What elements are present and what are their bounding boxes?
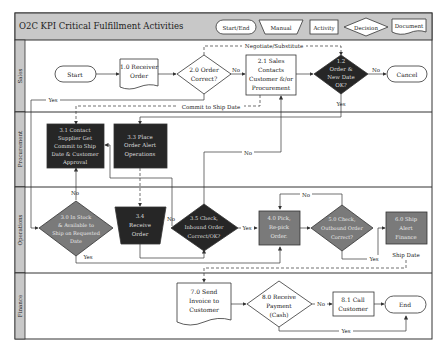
node-8-1-call-customer[interactable]: 8.1 Call Customer <box>333 292 374 316</box>
edge-label-no-2-0: No <box>232 67 241 73</box>
edge-label-no-1-2: No <box>372 67 381 73</box>
edge-label-yes-8-0: Yes <box>340 328 350 334</box>
lane-label-sales: Sales <box>17 68 23 83</box>
edge-label-no-3-0: No <box>71 190 80 196</box>
svg-text:Correct?: Correct? <box>331 234 353 240</box>
node-1-0-receive-order[interactable]: 1.0 Receiver Order <box>120 59 158 89</box>
svg-text:Receive: Receive <box>129 222 151 228</box>
edge-label-yes-3-5: Yes <box>241 225 251 231</box>
legend-activity-label: Activity <box>312 25 335 32</box>
svg-text:New Date: New Date <box>327 74 355 80</box>
svg-text:Order.: Order. <box>270 233 287 239</box>
svg-text:& Available to: & Available to <box>58 222 94 228</box>
svg-text:Correct?: Correct? <box>191 75 217 82</box>
svg-text:1.0 Receiver: 1.0 Receiver <box>120 63 158 70</box>
svg-text:3.1 Contact: 3.1 Contact <box>59 127 91 133</box>
node-start[interactable]: Start <box>55 66 96 82</box>
legend: Start/End Manual Activity Decision Docum… <box>216 18 426 36</box>
svg-text:3.4: 3.4 <box>136 213 145 219</box>
svg-text:6.0 Ship: 6.0 Ship <box>395 216 418 223</box>
svg-text:3.3 Place: 3.3 Place <box>127 134 153 140</box>
diagram-header: O2C KPI Critical Fulfillment Activities … <box>15 13 432 40</box>
svg-text:1.2: 1.2 <box>337 58 346 64</box>
svg-text:Order: Order <box>130 72 148 79</box>
svg-text:Customer: Customer <box>189 306 219 313</box>
svg-text:Customer: Customer <box>338 305 368 312</box>
svg-text:Supplier Get: Supplier Get <box>58 135 93 142</box>
svg-text:End: End <box>399 301 411 308</box>
node-2-1-sales-contacts[interactable]: 2.1 Sales Contacts Customer &/or Procure… <box>246 55 296 95</box>
svg-text:Commit to Ship: Commit to Ship <box>54 143 97 150</box>
lane-label-procurement: Procurement <box>17 130 23 167</box>
svg-text:5.0 Check,: 5.0 Check, <box>329 216 356 222</box>
edge-label-no-3-5: No <box>244 150 253 156</box>
node-end[interactable]: End <box>385 296 426 313</box>
edge-label-no-8-0: No <box>317 301 326 307</box>
svg-text:Outbound Order: Outbound Order <box>321 225 363 231</box>
svg-text:Contacts: Contacts <box>258 67 284 73</box>
svg-text:Finance: Finance <box>395 234 416 240</box>
svg-text:Date & Customer: Date & Customer <box>52 151 99 157</box>
lane-label-operations: Operations <box>17 214 24 245</box>
svg-text:3.5 Check,: 3.5 Check, <box>190 215 218 221</box>
svg-text:8.1 Call: 8.1 Call <box>341 296 365 303</box>
svg-text:(Cash): (Cash) <box>269 312 288 318</box>
svg-text:Start: Start <box>67 71 83 78</box>
svg-text:Re-pick: Re-pick <box>269 224 290 231</box>
legend-decision-label: Decision <box>354 25 378 31</box>
legend-document-label: Document <box>395 23 424 29</box>
legend-manual-label: Manual <box>270 25 291 31</box>
edge-label-yes-3-0: Yes <box>82 254 92 260</box>
svg-text:Operations: Operations <box>125 151 156 158</box>
svg-text:8.0 Receive: 8.0 Receive <box>262 294 297 300</box>
node-7-0-send-invoice[interactable]: 7.0 Send Invoice to Customer <box>177 283 231 325</box>
swimlane-diagram: O2C KPI Critical Fulfillment Activities … <box>0 0 443 353</box>
edge-label-yes-1-2: Yes <box>335 101 345 107</box>
svg-text:Customer &/or: Customer &/or <box>249 76 293 82</box>
svg-text:Alert: Alert <box>398 225 413 231</box>
svg-text:Procurement: Procurement <box>252 85 291 91</box>
node-4-0-pick-order[interactable]: 4.0 Pick, Re-pick Order. <box>259 211 300 245</box>
node-3-4-receive-order[interactable]: 3.4 Receive Order <box>115 207 166 244</box>
svg-text:Order: Order <box>132 231 149 237</box>
edge-label-no-5-0: No <box>302 192 311 198</box>
edge-label-yes-2-0: Yes <box>47 97 57 103</box>
edge-label-yes-5-0: Yes <box>368 256 378 262</box>
node-3-3-place-order-alert[interactable]: 3.3 Place Order Alert Operations <box>114 124 167 168</box>
diagram-title: O2C KPI Critical Fulfillment Activities <box>19 21 183 31</box>
legend-start-end-label: Start/End <box>222 25 250 31</box>
svg-text:2.1 Sales: 2.1 Sales <box>258 58 285 64</box>
edge-label-commit: Commit to Ship Date <box>182 104 240 111</box>
svg-text:7.0 Send: 7.0 Send <box>191 288 218 295</box>
edge-label-no-3-4: No <box>167 216 176 222</box>
lane-finance: Finance <box>15 273 25 339</box>
edge-label-ship-date: Ship Date <box>392 252 420 259</box>
svg-text:Order Alert: Order Alert <box>124 142 157 148</box>
svg-text:2.0 Order: 2.0 Order <box>189 66 219 73</box>
svg-text:Invoice to: Invoice to <box>189 297 219 304</box>
svg-text:Order &: Order & <box>329 66 352 72</box>
svg-text:Payment: Payment <box>266 303 292 310</box>
svg-text:3.0 In Stock: 3.0 In Stock <box>61 214 93 220</box>
svg-text:Correct/OK?: Correct/OK? <box>188 233 221 239</box>
svg-text:Date: Date <box>70 238 82 244</box>
svg-text:Approval: Approval <box>62 159 87 166</box>
svg-text:Ship on Requested: Ship on Requested <box>52 230 100 237</box>
svg-text:Inbound Order: Inbound Order <box>184 224 224 230</box>
lane-label-finance: Finance <box>17 295 23 317</box>
edge-label-negotiate: Negotiate/Substitute <box>245 43 303 50</box>
node-6-0-ship-alert-finance[interactable]: 6.0 Ship Alert Finance <box>386 212 427 244</box>
svg-text:OK?: OK? <box>335 82 347 88</box>
svg-text:4.0 Pick,: 4.0 Pick, <box>267 215 291 221</box>
svg-text:Cancel: Cancel <box>397 71 418 78</box>
node-cancel[interactable]: Cancel <box>387 66 427 82</box>
node-3-1-contact-supplier[interactable]: 3.1 Contact Supplier Get Commit to Ship … <box>47 124 104 168</box>
